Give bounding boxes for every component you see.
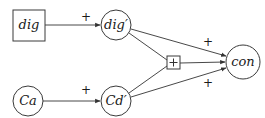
node-ca: Ca xyxy=(13,86,43,116)
edge-label-digp-con: + xyxy=(203,35,213,49)
node-con: con xyxy=(226,45,260,79)
node-dig: dig xyxy=(13,10,45,41)
edge-label-cdp-con: + xyxy=(203,76,213,90)
svg-text:con: con xyxy=(231,54,254,69)
edge-label-dig-digp: + xyxy=(81,10,91,24)
node-dig-prime: dig′ xyxy=(101,10,131,40)
svg-text:dig: dig xyxy=(19,17,40,32)
edge-digp-to-plus xyxy=(129,33,167,60)
edge-cdp-to-plus xyxy=(129,66,167,93)
svg-text:dig′: dig′ xyxy=(104,17,128,32)
node-cd-prime: Cd′ xyxy=(101,86,131,116)
edge-label-ca-cdp: + xyxy=(81,83,91,97)
node-plus-junction xyxy=(167,56,180,69)
edge-plus-to-con xyxy=(180,62,225,63)
svg-text:Ca: Ca xyxy=(19,93,37,108)
causal-diagram: + + + + dig dig′ Ca Cd′ con xyxy=(0,0,265,118)
svg-text:Cd′: Cd′ xyxy=(105,93,126,108)
